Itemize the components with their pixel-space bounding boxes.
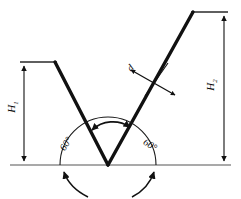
label-height-h1: H1	[6, 101, 20, 112]
label-h2-symbol: H	[204, 83, 216, 91]
rotation-arrow-left	[64, 172, 88, 197]
label-h2-subscript: 2	[211, 79, 218, 82]
label-height-h2: H2	[205, 79, 219, 90]
included-angle-arc-arrow	[92, 122, 130, 130]
diagram-canvas	[0, 0, 241, 199]
rotation-arrow-right	[132, 172, 154, 197]
label-h1-symbol: H	[5, 105, 17, 113]
angle-arc-semicircle	[60, 117, 156, 165]
dimension-line-d	[131, 70, 175, 95]
technical-diagram: H1 H2 60° 60° d	[0, 0, 241, 199]
label-h1-subscript: 1	[12, 101, 19, 104]
